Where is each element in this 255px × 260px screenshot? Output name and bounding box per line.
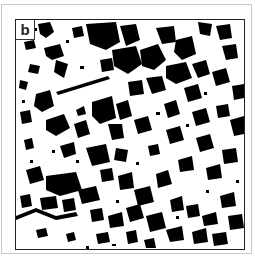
panel-label: b xyxy=(16,20,35,40)
map-panel: b xyxy=(15,19,245,250)
figure-outer-frame: b xyxy=(1,4,252,254)
patch-map xyxy=(16,20,245,250)
